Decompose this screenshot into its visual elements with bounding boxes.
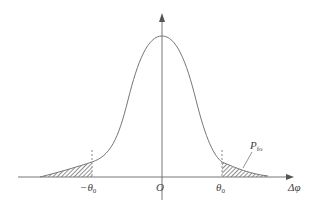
tail-prob-label: Pfo: [250, 139, 263, 153]
left-threshold-label: −θ0: [80, 181, 96, 195]
distribution-curve: [40, 36, 268, 177]
bell-curve-diagram: [0, 0, 315, 202]
x-axis-arrow-icon: [286, 174, 294, 180]
right-threshold-label: θ0: [216, 181, 225, 195]
x-axis-label: Δφ: [288, 181, 301, 193]
y-axis-arrow-icon: [159, 13, 165, 22]
tail-prob-leader: [243, 152, 252, 168]
origin-label: O: [156, 181, 164, 193]
